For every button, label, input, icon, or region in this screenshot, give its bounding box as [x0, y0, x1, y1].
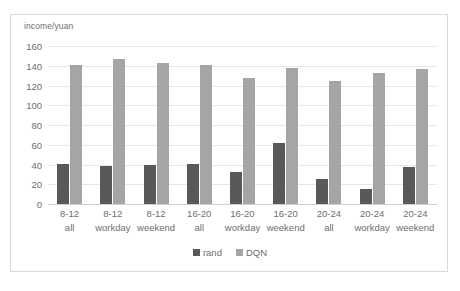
legend-item[interactable]: DQN	[236, 247, 267, 258]
x-axis-tick-label: 20-24weekend	[394, 207, 437, 235]
x-label-line1: 20-24	[317, 208, 341, 219]
bar-dqn	[286, 68, 298, 204]
y-axis-tick-label: 0	[2, 199, 42, 210]
x-label-line2: all	[48, 221, 91, 235]
x-label-line2: weekend	[394, 221, 437, 235]
bar-rand	[230, 172, 242, 204]
x-label-line1: 16-20	[187, 208, 211, 219]
bar-group	[394, 46, 437, 204]
x-label-line1: 16-20	[230, 208, 254, 219]
x-axis-tick-label: 16-20all	[178, 207, 221, 235]
bar-groups	[48, 46, 437, 204]
x-axis-tick-label: 20-24workday	[351, 207, 394, 235]
gridline	[48, 204, 437, 205]
bar-group	[134, 46, 177, 204]
bar-dqn	[416, 69, 428, 204]
bar-rand	[360, 189, 372, 204]
y-axis-tick-label: 140	[2, 60, 42, 71]
y-axis-tick-label: 60	[2, 139, 42, 150]
bar-rand	[187, 164, 199, 204]
bar-rand	[403, 167, 415, 204]
x-label-line1: 8-12	[103, 208, 122, 219]
x-label-line1: 20-24	[360, 208, 384, 219]
y-axis-tick-label: 40	[2, 159, 42, 170]
x-axis-tick-label: 8-12workday	[91, 207, 134, 235]
x-label-line2: workday	[221, 221, 264, 235]
bar-dqn	[243, 78, 255, 204]
x-axis-tick-label: 16-20workday	[221, 207, 264, 235]
bar-rand	[316, 179, 328, 204]
bar-group	[264, 46, 307, 204]
legend-swatch-icon	[193, 249, 200, 256]
y-axis-tick-label: 120	[2, 80, 42, 91]
bar-rand	[273, 143, 285, 204]
chart-legend: randDQN	[11, 247, 449, 258]
x-label-line2: weekend	[264, 221, 307, 235]
bar-group	[91, 46, 134, 204]
y-axis-tick-label: 80	[2, 120, 42, 131]
x-label-line1: 8-12	[60, 208, 79, 219]
x-label-line1: 20-24	[403, 208, 427, 219]
x-axis-tick-label: 20-24all	[307, 207, 350, 235]
x-label-line2: weekend	[134, 221, 177, 235]
y-axis-tick-label: 100	[2, 100, 42, 111]
x-axis-tick-label: 8-12weekend	[134, 207, 177, 235]
bar-dqn	[200, 65, 212, 204]
bar-rand	[144, 165, 156, 205]
bar-rand	[57, 164, 69, 204]
x-label-line2: all	[307, 221, 350, 235]
legend-swatch-icon	[236, 249, 243, 256]
plot-area: 020406080100120140160	[48, 46, 437, 204]
x-axis-tick-label: 8-12all	[48, 207, 91, 235]
legend-label: rand	[203, 247, 222, 258]
bar-group	[351, 46, 394, 204]
bar-group	[221, 46, 264, 204]
legend-item[interactable]: rand	[193, 247, 222, 258]
x-label-line2: all	[178, 221, 221, 235]
bar-dqn	[113, 59, 125, 204]
x-axis-tick-labels: 8-12all8-12workday8-12weekend16-20all16-…	[48, 207, 437, 235]
bar-dqn	[373, 73, 385, 204]
y-axis-title: income/yuan	[24, 21, 73, 31]
bar-rand	[100, 166, 112, 204]
bar-group	[178, 46, 221, 204]
bar-dqn	[329, 81, 341, 204]
chart-container: income/yuan 020406080100120140160 8-12al…	[10, 14, 448, 272]
x-axis-tick-label: 16-20weekend	[264, 207, 307, 235]
legend-label: DQN	[246, 247, 267, 258]
x-label-line1: 8-12	[147, 208, 166, 219]
x-label-line2: workday	[351, 221, 394, 235]
x-label-line2: workday	[91, 221, 134, 235]
bar-dqn	[70, 65, 82, 204]
y-axis-tick-label: 160	[2, 41, 42, 52]
bar-group	[48, 46, 91, 204]
bar-dqn	[157, 63, 169, 204]
x-label-line1: 16-20	[274, 208, 298, 219]
y-axis-tick-label: 20	[2, 179, 42, 190]
bar-group	[307, 46, 350, 204]
